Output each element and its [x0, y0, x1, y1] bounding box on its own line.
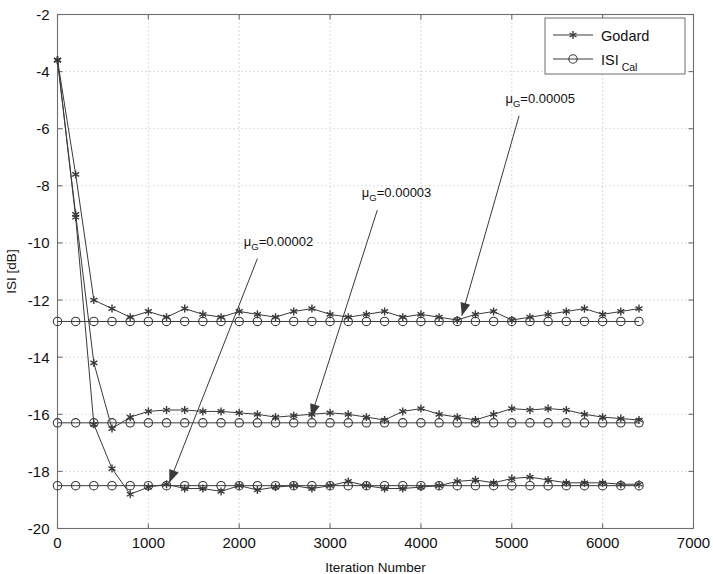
x-tick-label: 7000 [677, 534, 710, 551]
y-tick-label: -4 [36, 63, 49, 80]
y-tick-label: -8 [36, 177, 49, 194]
x-tick-label: 6000 [586, 534, 619, 551]
y-tick-label: -14 [28, 349, 50, 366]
y-tick-label: -16 [28, 406, 50, 423]
x-tick-label: 5000 [495, 534, 528, 551]
x-axis-title: Iteration Number [325, 560, 426, 574]
y-tick-label: -12 [28, 292, 50, 309]
x-tick-label: 0 [53, 534, 61, 551]
legend[interactable]: GodardISI Cal [545, 18, 685, 74]
x-tick-label: 2000 [223, 534, 256, 551]
x-tick-label: 4000 [404, 534, 437, 551]
legend-label: Godard [601, 28, 649, 44]
y-axis-title: ISI [dB] [4, 249, 19, 293]
y-tick-label: -18 [28, 463, 50, 480]
y-tick-label: -20 [28, 520, 50, 537]
figure-container: 01000200030004000500060007000-20-18-16-1… [0, 0, 713, 574]
y-tick-label: -6 [36, 120, 49, 137]
isi-vs-iteration-chart: 01000200030004000500060007000-20-18-16-1… [0, 0, 713, 574]
y-tick-label: -2 [36, 6, 49, 23]
y-tick-label: -10 [28, 234, 50, 251]
x-tick-label: 1000 [132, 534, 165, 551]
x-tick-label: 3000 [313, 534, 346, 551]
